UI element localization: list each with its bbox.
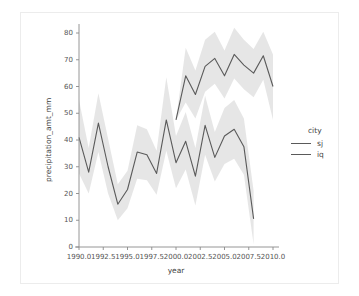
x-tick-label: 1990.0 xyxy=(67,253,92,261)
y-tick-label: 70 xyxy=(47,56,73,64)
x-tick-label: 2010.0 xyxy=(261,253,286,261)
confidence-bands xyxy=(79,28,273,245)
x-axis-label: year xyxy=(39,266,313,275)
x-tick-label: 1997.5 xyxy=(140,253,165,261)
x-tick-label: 1995.0 xyxy=(115,253,140,261)
confidence-band-iq xyxy=(176,28,273,120)
legend-label-iq: iq xyxy=(317,150,324,159)
legend: city sj iq xyxy=(291,126,353,160)
legend-title: city xyxy=(308,126,353,135)
x-tick-label: 2007.5 xyxy=(237,253,262,261)
legend-item-sj[interactable]: sj xyxy=(291,138,353,149)
confidence-band-sj xyxy=(79,77,254,244)
figure-canvas: 01020304050607080 1990.01992.51995.01997… xyxy=(0,0,359,296)
y-tick-label: 60 xyxy=(47,83,73,91)
x-tick-label: 2002.5 xyxy=(188,253,213,261)
legend-line-swatch-sj xyxy=(291,143,311,144)
x-tick-label: 2000.0 xyxy=(164,253,189,261)
y-tick-label: 10 xyxy=(47,216,73,224)
x-tick-label: 1992.5 xyxy=(91,253,116,261)
legend-item-iq[interactable]: iq xyxy=(291,149,353,160)
legend-line-swatch-iq xyxy=(291,154,311,155)
legend-label-sj: sj xyxy=(317,139,323,148)
y-axis-label: precipitation_amt_mm xyxy=(44,98,53,182)
y-tick-label: 0 xyxy=(47,243,73,251)
y-tick-label: 80 xyxy=(47,29,73,37)
y-tick-label: 20 xyxy=(47,190,73,198)
x-tick-label: 2005.0 xyxy=(212,253,237,261)
